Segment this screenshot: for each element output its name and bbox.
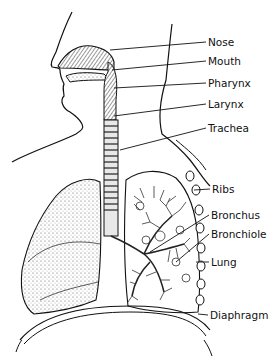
- anatomy-illustration: [0, 0, 273, 356]
- label-bronchiole: Bronchiole: [211, 228, 267, 240]
- respiratory-diagram: Nose Mouth Pharynx Larynx Trachea Ribs B…: [0, 0, 273, 356]
- label-mouth: Mouth: [208, 55, 241, 67]
- label-lung: Lung: [211, 256, 237, 268]
- label-pharynx: Pharynx: [208, 77, 251, 89]
- nasal-cavity: [58, 46, 114, 70]
- label-ribs: Ribs: [212, 183, 234, 195]
- left-lung: [21, 179, 100, 314]
- mouth-cavity: [66, 73, 110, 82]
- label-larynx: Larynx: [208, 98, 244, 110]
- label-nose: Nose: [208, 36, 234, 48]
- face-outline: [12, 12, 83, 162]
- label-diaphragm: Diaphragm: [210, 309, 268, 321]
- label-trachea: Trachea: [208, 122, 249, 134]
- right-lung: [125, 171, 200, 312]
- label-bronchus: Bronchus: [211, 209, 260, 221]
- neck-outline: [160, 24, 210, 186]
- pharynx: [104, 62, 117, 120]
